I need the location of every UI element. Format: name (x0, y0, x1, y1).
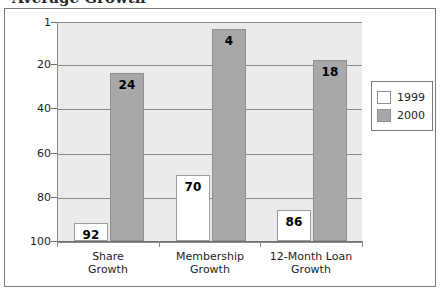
bar-2000[interactable]: 4 (212, 29, 246, 241)
y-tick-label: 60 (11, 147, 51, 160)
x-category-label-line: 12-Month Loan (260, 250, 362, 263)
x-category-label-line: Membership (159, 250, 261, 263)
bar-value-label: 86 (278, 215, 310, 229)
x-axis-end-tick (362, 241, 363, 247)
cut-off-title-text: Average Growth (12, 0, 442, 6)
bar-value-label: 18 (314, 65, 346, 79)
x-category-label-line: Growth (159, 263, 261, 276)
plot-inner: 92247048618 (58, 23, 362, 241)
x-category-label-line: Share (57, 250, 159, 263)
bar-value-label: 24 (111, 78, 143, 92)
legend-item-1999[interactable]: 1999 (377, 88, 427, 106)
y-tick-label: 1 (11, 16, 51, 29)
x-category-label-line: Growth (57, 263, 159, 276)
y-tick-label: 40 (11, 102, 51, 115)
bar-1999[interactable]: 92 (74, 223, 108, 241)
legend-label-2000: 2000 (397, 109, 425, 122)
y-tick-label: 100 (11, 235, 51, 248)
x-axis-end-tick (57, 241, 58, 247)
x-axis-baseline (57, 241, 363, 242)
bar-1999[interactable]: 70 (176, 175, 210, 241)
x-category-label: MembershipGrowth (159, 250, 261, 276)
legend-swatch-2000-icon (377, 109, 391, 122)
bar-2000[interactable]: 24 (110, 73, 144, 241)
bar-value-label: 92 (75, 228, 107, 242)
legend-swatch-1999-icon (377, 91, 391, 104)
bar-value-label: 70 (177, 180, 209, 194)
y-tick-label: 20 (11, 58, 51, 71)
y-axis: 120406080100 (5, 22, 51, 241)
cut-off-title: Average Growth (0, 0, 442, 7)
chart-legend: 1999 2000 (371, 81, 433, 131)
x-category-label: 12-Month LoanGrowth (260, 250, 362, 276)
legend-label-1999: 1999 (397, 91, 425, 104)
category-separator-tick (260, 241, 261, 247)
bar-2000[interactable]: 18 (313, 60, 347, 241)
x-category-label-line: Growth (260, 263, 362, 276)
gridline (58, 242, 362, 243)
bar-value-label: 4 (213, 34, 245, 48)
bar-1999[interactable]: 86 (277, 210, 311, 241)
category-separator-tick (159, 241, 160, 247)
legend-item-2000[interactable]: 2000 (377, 106, 427, 124)
x-category-label: ShareGrowth (57, 250, 159, 276)
chart-figure-frame: 120406080100 92247048618 1999 2000 Share… (4, 8, 436, 287)
plot-area: 92247048618 (57, 22, 362, 241)
y-tick-label: 80 (11, 191, 51, 204)
